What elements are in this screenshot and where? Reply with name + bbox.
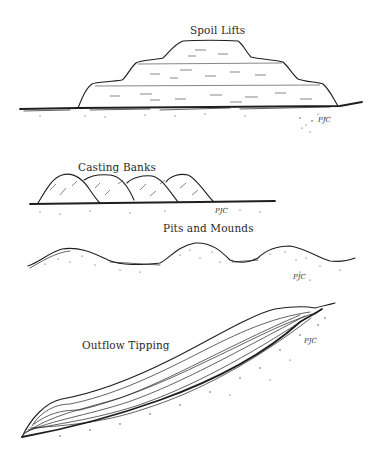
- pits-and-mounds-sketch: PJC: [28, 243, 355, 281]
- pits-and-mounds-signature: PJC: [292, 273, 307, 281]
- spoil-lifts-signature: PJC: [317, 116, 332, 124]
- outflow-tipping-sketch: PJC: [22, 303, 335, 437]
- casting-banks-sketch: PJC: [30, 174, 275, 215]
- figure-canvas: PJC PJC: [0, 0, 380, 458]
- spoil-lifts-label: Spoil Lifts: [190, 24, 245, 36]
- pits-and-mounds-label: Pits and Mounds: [163, 222, 254, 234]
- casting-banks-signature: PJC: [214, 207, 229, 215]
- outflow-tipping-signature: PJC: [303, 337, 318, 345]
- spoil-lifts-sketch: PJC: [20, 40, 362, 132]
- casting-banks-label: Casting Banks: [78, 161, 156, 173]
- outflow-tipping-label: Outflow Tipping: [82, 339, 170, 351]
